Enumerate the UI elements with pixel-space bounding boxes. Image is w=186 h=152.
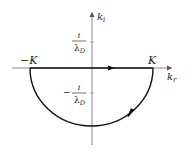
vertical-axis-label: ki xyxy=(97,11,105,24)
svg-text:λD: λD xyxy=(74,43,86,55)
svg-text:λD: λD xyxy=(74,95,86,107)
svg-text:−: − xyxy=(63,87,71,97)
svg-text:i: i xyxy=(78,83,81,92)
contour-diagram: ki kr −K K i λD − i λD xyxy=(0,0,186,152)
left-endpoint-label: −K xyxy=(20,54,38,67)
arrow-right-icon xyxy=(108,66,115,71)
upper-tick-label: i λD xyxy=(72,31,86,55)
svg-text:i: i xyxy=(78,31,81,40)
lower-tick-label: − i λD xyxy=(63,83,86,107)
horizontal-axis-label: kr xyxy=(167,71,177,84)
right-endpoint-label: K xyxy=(147,54,157,67)
arrow-clockwise-icon xyxy=(128,109,134,117)
